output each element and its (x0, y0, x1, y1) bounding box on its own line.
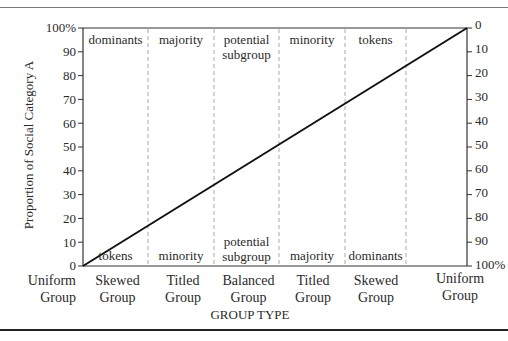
left-tick-70: 70 (63, 92, 76, 107)
x-label-balanced: Balanced Group (216, 272, 281, 306)
left-tick-90: 90 (63, 44, 76, 59)
right-tick-0: 0 (475, 17, 482, 32)
bottom-region-minority: minority (148, 248, 214, 263)
x-label-titled-right: Titled Group (280, 272, 346, 306)
left-tick-0: 0 (70, 258, 77, 273)
right-tick-30: 30 (475, 89, 488, 104)
right-tick-80: 80 (475, 209, 488, 224)
right-tick-50: 50 (475, 137, 488, 152)
top-region-minority: minority (279, 32, 345, 47)
left-ticks (78, 28, 83, 266)
left-tick-80: 80 (63, 68, 76, 83)
x-label-titled-left: Titled Group (150, 272, 216, 306)
left-tick-60: 60 (63, 116, 76, 131)
right-tick-90: 90 (475, 233, 488, 248)
left-tick-100: 100% (46, 20, 76, 35)
left-tick-30: 30 (63, 187, 76, 202)
x-label-skewed-right: Skewed Group (344, 272, 408, 306)
top-region-majority: majority (148, 32, 214, 47)
left-tick-20: 20 (63, 211, 76, 226)
right-tick-10: 10 (475, 41, 488, 56)
left-tick-10: 10 (63, 235, 76, 250)
proportion-line (83, 28, 467, 266)
right-ticks (467, 28, 472, 266)
bottom-region-dominants: dominants (345, 248, 406, 263)
top-region-potential-subgroup: potential subgroup (214, 32, 279, 62)
bottom-region-tokens: tokens (83, 248, 148, 263)
x-axis-title: GROUP TYPE (150, 307, 350, 322)
top-region-tokens: tokens (345, 32, 406, 47)
x-label-skewed-left: Skewed Group (85, 272, 150, 306)
left-axis-title: Proportion of Social Category A (21, 45, 37, 245)
right-tick-40: 40 (475, 113, 488, 128)
left-tick-40: 40 (63, 163, 76, 178)
bottom-region-majority: majority (279, 248, 345, 263)
right-tick-70: 70 (475, 185, 488, 200)
right-tick-60: 60 (475, 161, 488, 176)
x-label-uniform-left: Uniform Group (4, 272, 76, 306)
top-region-dominants: dominants (83, 32, 148, 47)
bottom-region-potential-subgroup: potential subgroup (214, 234, 279, 264)
group-dividers (148, 29, 406, 265)
right-tick-20: 20 (475, 65, 488, 80)
left-tick-50: 50 (63, 139, 76, 154)
x-label-uniform-right: Uniform Group (420, 270, 500, 304)
